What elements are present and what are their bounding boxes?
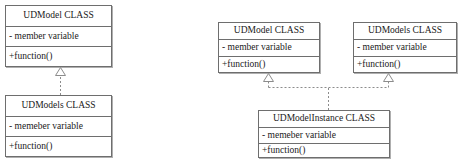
class-box-udmodels-right[interactable]: UDModels CLASS - member variable +functi… bbox=[353, 22, 457, 73]
hollow-triangle-arrowhead-left bbox=[56, 68, 66, 76]
class-operation-udmodelinstance: +function() bbox=[259, 144, 389, 158]
class-name-udmodel-left: UDModel CLASS bbox=[6, 6, 111, 27]
class-box-udmodels-left[interactable]: UDModels CLASS - memeber variable +funct… bbox=[5, 95, 112, 157]
realization-right-branching bbox=[264, 74, 394, 111]
realization-left-udmodels-to-udmodel bbox=[56, 68, 66, 96]
class-name-udmodelinstance: UDModelInstance CLASS bbox=[259, 111, 389, 128]
class-operation-udmodel-left: +function() bbox=[6, 47, 111, 66]
class-operation-udmodels-right: +function() bbox=[354, 57, 456, 72]
class-box-udmodel-right[interactable]: UDModel CLASS - member variable +functio… bbox=[218, 22, 320, 73]
class-name-udmodel-right: UDModel CLASS bbox=[219, 23, 319, 40]
uml-class-diagram-canvas: UDModel CLASS - member variable +functio… bbox=[0, 0, 465, 163]
class-attribute-udmodel-right: - member variable bbox=[219, 40, 319, 57]
class-operation-udmodels-left: +function() bbox=[6, 137, 111, 156]
class-attribute-udmodel-left: - member variable bbox=[6, 27, 111, 47]
class-name-udmodels-left: UDModels CLASS bbox=[6, 96, 111, 117]
hollow-triangle-arrowhead-right-udmodel bbox=[264, 74, 274, 82]
class-attribute-udmodelinstance: - memeber variable bbox=[259, 128, 389, 144]
class-box-udmodel-left[interactable]: UDModel CLASS - member variable +functio… bbox=[5, 5, 112, 67]
class-name-udmodels-right: UDModels CLASS bbox=[354, 23, 456, 40]
class-box-udmodelinstance[interactable]: UDModelInstance CLASS - memeber variable… bbox=[258, 110, 390, 158]
class-attribute-udmodels-left: - memeber variable bbox=[6, 117, 111, 137]
class-operation-udmodel-right: +function() bbox=[219, 57, 319, 72]
class-attribute-udmodels-right: - member variable bbox=[354, 40, 456, 57]
hollow-triangle-arrowhead-right-udmodels bbox=[384, 74, 394, 82]
